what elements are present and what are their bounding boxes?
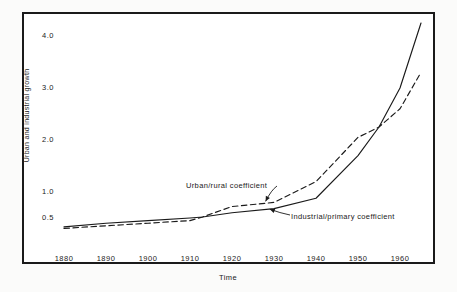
x-tick-label-1920: 1920 <box>215 254 249 263</box>
x-tick-label-1950: 1950 <box>341 254 375 263</box>
x-tick-label-1930: 1930 <box>257 254 291 263</box>
y-axis-title: Urban and industrial growth <box>23 66 30 166</box>
annotation-urban-rural-coefficient: Urban/rural coefficient <box>186 181 267 190</box>
chart-figure: 4.0 3.0 2.0 1.0 0.5 Urban and industrial… <box>0 0 457 292</box>
y-tick-label-0-5: 0.5 <box>20 213 54 222</box>
x-tick-label-1890: 1890 <box>89 254 123 263</box>
y-tick-label-1: 1.0 <box>20 187 54 196</box>
x-tick-label-1900: 1900 <box>131 254 165 263</box>
x-tick-label-1960: 1960 <box>383 254 417 263</box>
x-tick-label-1940: 1940 <box>299 254 333 263</box>
x-tick-label-1880: 1880 <box>47 254 81 263</box>
x-axis-title: Time <box>198 273 258 282</box>
annotation-industrial-primary-coefficient: Industrial/primary coefficient <box>291 212 395 221</box>
plot-area-frame <box>22 12 435 264</box>
x-tick-label-1910: 1910 <box>173 254 207 263</box>
y-tick-label-4: 4.0 <box>20 31 54 40</box>
